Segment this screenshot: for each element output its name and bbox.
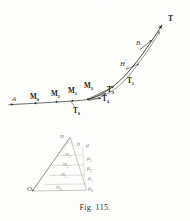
label-m3h-sub: 3 (69, 155, 71, 159)
label-hodograph-m3: m3 (65, 152, 71, 160)
figure-container: · · · · · A T B H′2 M0 M1 M2 M3 T0 T4 T3… (0, 0, 190, 221)
label-mu1-sub: 1 (91, 179, 93, 183)
label-hodograph-mu2: μ2 (87, 165, 92, 174)
label-mu3-sub: 3 (90, 159, 92, 163)
label-m1-base: M (51, 90, 58, 98)
label-vector-t4: T4 (102, 96, 109, 105)
label-vector-t2: T2 (127, 78, 134, 87)
label-hodograph-mu: μ (86, 142, 89, 151)
label-t2-sub: 2 (132, 81, 134, 86)
axis-point-dots (35, 98, 89, 104)
label-mu-base: μ (86, 142, 89, 148)
label-vector-t3: T3 (107, 87, 114, 96)
label-t4-sub: 4 (107, 99, 109, 104)
label-m1h-sub: 1 (65, 175, 67, 179)
label-hodograph-mu0: μ0 (88, 185, 93, 194)
label-point-m0: M0 (30, 94, 39, 103)
label-mu0-sub: 0 (91, 189, 93, 193)
label-vector-t0: T0 (73, 108, 80, 117)
label-hodograph-origin: O (27, 186, 32, 193)
label-hodograph-m1: m1 (61, 172, 67, 180)
label-h-prime-mark: ′ (125, 58, 126, 64)
label-m0-sub: 0 (37, 97, 39, 102)
label-h-sub: 2 (126, 65, 128, 70)
label-t3-sub: 3 (112, 90, 114, 95)
bleed-mark: · (160, 3, 162, 8)
label-apex-base: m (60, 133, 64, 139)
bleed-mark: · (82, 2, 84, 7)
figure-caption: Fig. 115. (0, 203, 190, 212)
label-m3-sub: 3 (91, 86, 93, 91)
label-point-t: T (168, 15, 173, 23)
label-hodograph-mu3: μ3 (87, 155, 92, 164)
label-hodograph-m2: m2 (63, 162, 69, 170)
label-m1-sub: 1 (58, 94, 60, 99)
label-hodograph-b: b (77, 141, 80, 147)
label-point-m2: M2 (68, 88, 77, 97)
label-m3-base: M (84, 82, 91, 90)
label-point-m1: M1 (51, 91, 60, 100)
label-mu2-sub: 2 (90, 169, 92, 173)
label-m0h-sub: 0 (60, 188, 62, 192)
label-hodograph-m0: m0 (56, 185, 62, 193)
bleed-mark: · (124, 2, 126, 7)
label-m0-base: M (30, 93, 37, 101)
label-t0-sub: 0 (78, 111, 80, 116)
label-point-b: B (136, 40, 140, 47)
label-hodograph-apex: m (60, 133, 64, 142)
label-m2-base: M (68, 87, 75, 95)
main-axis-line (9, 99, 90, 104)
bleed-mark: · (103, 3, 105, 8)
label-point-m3: M3 (84, 83, 93, 92)
tangent-segments (71, 40, 153, 108)
label-m2-sub: 2 (75, 91, 77, 96)
bleed-mark: · (40, 3, 42, 8)
label-point-h-prime: H′2 (120, 59, 128, 70)
label-point-a: A (12, 96, 16, 103)
label-hodograph-mu1: μ1 (88, 175, 93, 184)
label-m2h-sub: 2 (67, 165, 69, 169)
